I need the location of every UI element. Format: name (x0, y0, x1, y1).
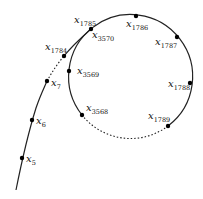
label-x1784: x1784 (45, 41, 67, 55)
point-x5 (20, 156, 24, 160)
point-x7 (45, 79, 49, 83)
rho-diagram: x5 x6 x7 x1784 x1785 x1786 x1787 x1788 x… (0, 0, 203, 199)
label-x1789: x1789 (148, 110, 170, 124)
label-x7: x7 (51, 77, 61, 91)
point-x3568 (80, 113, 84, 117)
point-x3569 (67, 69, 71, 73)
point-x1786 (134, 14, 138, 18)
point-x1787 (175, 35, 179, 39)
point-x1789 (166, 124, 170, 128)
label-x6: x6 (36, 115, 46, 129)
label-x1786: x1786 (126, 18, 148, 32)
tail-curve-solid (16, 81, 47, 190)
label-x1787: x1787 (155, 36, 177, 50)
label-x3568: x3568 (86, 102, 108, 116)
label-x3569: x3569 (77, 65, 99, 79)
label-x5: x5 (26, 153, 36, 167)
label-x1785: x1785 (74, 14, 96, 28)
point-x6 (30, 118, 34, 122)
label-x3570: x3570 (92, 29, 114, 43)
label-x1788: x1788 (168, 78, 190, 92)
